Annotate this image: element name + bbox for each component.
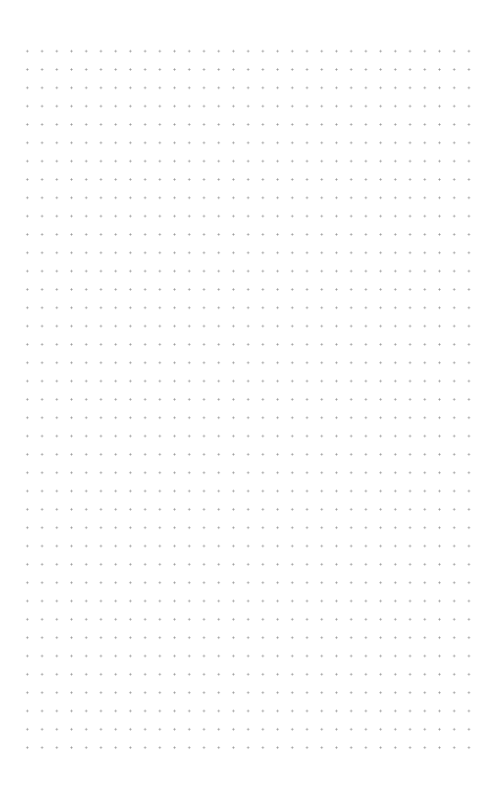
- dot-grid: [20, 42, 477, 757]
